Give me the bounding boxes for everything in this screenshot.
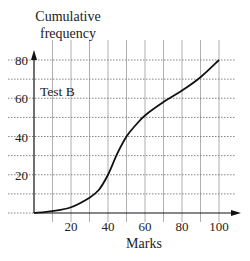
cumulative-frequency-chart: 2040608010020406080 Cumulative frequency… [0, 0, 250, 261]
y-axis-label-line2: frequency [40, 26, 96, 41]
x-tick-label: 100 [209, 219, 229, 234]
grid [8, 40, 236, 222]
x-tick-label: 60 [139, 219, 152, 234]
chart-root: 2040608010020406080 Cumulative frequency… [0, 0, 250, 261]
y-tick-label: 60 [15, 91, 28, 106]
y-axis-arrow-icon [31, 50, 37, 60]
series-annotation: Test B [40, 84, 75, 99]
x-tick-label: 40 [102, 219, 115, 234]
y-tick-label: 80 [15, 53, 28, 68]
x-axis-label: Marks [126, 236, 162, 251]
x-axis-arrow-icon [231, 210, 241, 216]
y-axis-label-line1: Cumulative [35, 9, 100, 24]
x-tick-label: 20 [65, 219, 78, 234]
axes [31, 50, 241, 216]
y-tick-label: 20 [15, 168, 28, 183]
x-tick-label: 80 [176, 219, 189, 234]
y-tick-label: 40 [15, 130, 28, 145]
